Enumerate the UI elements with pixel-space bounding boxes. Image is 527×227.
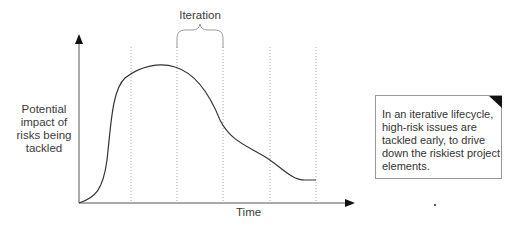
note-box: In an iterative lifecycle, high-risk iss…: [375, 95, 502, 179]
x-axis-label: Time: [236, 206, 261, 219]
risk-curve: [79, 65, 316, 203]
y-axis-label: Potential impact of risks being tackled: [14, 103, 74, 155]
x-axis-arrow-icon: [345, 199, 355, 207]
axes: [79, 40, 345, 203]
y-axis-arrow-icon: [75, 34, 83, 44]
note-text: In an iterative lifecycle, high-risk iss…: [382, 108, 500, 173]
iteration-brace: [177, 24, 223, 48]
iteration-label: Iteration: [178, 9, 222, 22]
stray-dot: [434, 204, 436, 206]
